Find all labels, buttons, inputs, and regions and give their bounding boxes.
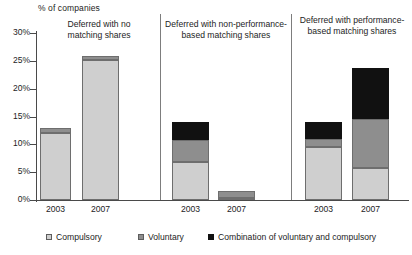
- panel-heading-line1: Deferred with performance-: [294, 15, 410, 26]
- panel-separator: [160, 14, 161, 200]
- legend-item-compulsory: Compulsory: [46, 232, 102, 242]
- bar-segment-compulsory: [172, 162, 209, 200]
- bar-2007: [218, 191, 255, 200]
- legend: Compulsory Voluntary Combination of volu…: [0, 232, 412, 248]
- x-axis-label: 2003: [301, 204, 347, 214]
- bar-segment-combination: [352, 68, 389, 119]
- bar-segment-compulsory: [305, 147, 342, 200]
- panel-heading-no-matching: Deferred with no matching shares: [40, 19, 158, 40]
- legend-item-combination: Combination of voluntary and compulsory: [208, 232, 376, 242]
- bar-segment-voluntary: [352, 119, 389, 168]
- bar-segment-compulsory: [82, 60, 119, 200]
- y-axis-tick: [30, 61, 36, 62]
- panel-heading-line2: based matching shares: [294, 26, 410, 37]
- y-axis-line: [36, 31, 37, 202]
- y-axis-tick-label: 20%: [0, 84, 30, 93]
- y-axis-tick-label: 0%: [0, 195, 30, 204]
- bar-segment-voluntary: [305, 139, 342, 147]
- y-axis-tick: [30, 117, 36, 118]
- y-axis-title: % of companies: [38, 3, 100, 13]
- legend-swatch-icon: [208, 234, 214, 240]
- x-axis-label: 2003: [168, 204, 214, 214]
- panel-heading-performance: Deferred with performance- based matchin…: [294, 15, 410, 36]
- bar-segment-combination: [305, 122, 342, 139]
- y-axis-tick-label: 10%: [0, 139, 30, 148]
- y-axis-tick-label: 30%: [0, 28, 30, 37]
- y-axis-tick: [30, 33, 36, 34]
- x-axis-label: 2007: [214, 204, 260, 214]
- legend-label: Combination of voluntary and compulsory: [218, 232, 376, 242]
- bar-segment-compulsory: [352, 168, 389, 200]
- panel-heading-line1: Deferred with no: [40, 19, 158, 30]
- legend-item-voluntary: Voluntary: [138, 232, 184, 242]
- panel-heading-line1: Deferred with non-performance-: [163, 19, 289, 30]
- legend-label: Voluntary: [148, 232, 184, 242]
- bar-segment-combination: [172, 122, 209, 140]
- panel-heading-line2: matching shares: [40, 30, 158, 41]
- y-axis-tick: [30, 144, 36, 145]
- panel-separator: [291, 14, 292, 200]
- bar-segment-compulsory: [40, 133, 71, 200]
- y-axis-tick-label: 5%: [0, 167, 30, 176]
- x-axis-label: 2007: [78, 204, 124, 214]
- bar-segment-compulsory: [218, 198, 255, 200]
- bar-2007: [82, 56, 119, 200]
- bar-2003: [305, 122, 342, 200]
- y-axis-tick-label: 15%: [0, 112, 30, 121]
- y-axis-tick: [30, 89, 36, 90]
- bar-segment-voluntary: [218, 191, 255, 198]
- bar-2007: [352, 68, 389, 200]
- x-axis-line: [36, 200, 409, 201]
- x-axis-label: 2003: [33, 204, 79, 214]
- legend-label: Compulsory: [56, 232, 102, 242]
- x-axis-label: 2007: [348, 204, 394, 214]
- bar-segment-voluntary: [172, 140, 209, 162]
- legend-swatch-icon: [46, 234, 52, 240]
- panel-heading-line2: based matching shares: [163, 30, 289, 41]
- chart-figure: % of companies 30%25%20%15%10%5%0% Defer…: [0, 0, 412, 255]
- y-axis-tick-label: 25%: [0, 56, 30, 65]
- y-axis-tick: [30, 172, 36, 173]
- panel-heading-non-performance: Deferred with non-performance- based mat…: [163, 19, 289, 40]
- y-axis-tick: [30, 200, 36, 201]
- legend-swatch-icon: [138, 234, 144, 240]
- bar-2003: [172, 122, 209, 200]
- bar-2003: [40, 128, 71, 200]
